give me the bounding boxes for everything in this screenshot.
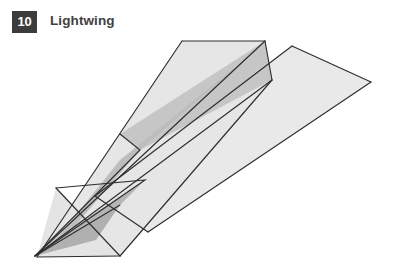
page-title: Lightwing <box>50 13 115 28</box>
paper-airplane-svg <box>0 30 393 274</box>
plane-panels <box>35 41 371 257</box>
paper-airplane-illustration <box>0 30 393 274</box>
